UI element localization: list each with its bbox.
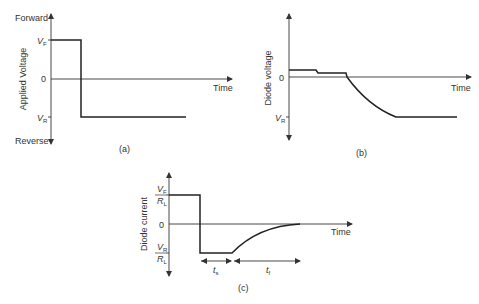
y-axis-label: Diode voltage xyxy=(263,50,273,105)
applied-voltage-trace xyxy=(51,40,186,117)
time-label: Time xyxy=(213,83,233,93)
y-axis-label: Applied Voltage xyxy=(18,48,28,111)
time-label: Time xyxy=(331,227,351,237)
tick-vr-over-rl: VR RL xyxy=(155,242,168,265)
panel-c-diode-current: ts tf Time Diode current VF RL 0 VR RL (… xyxy=(139,173,352,293)
panel-a-applied-voltage: Forward Reverse Time Applied Voltage VF … xyxy=(15,13,233,154)
caption-c: (c) xyxy=(238,283,249,293)
tick-vf: VF xyxy=(37,36,47,47)
tick-vr: VR xyxy=(37,113,48,124)
forward-label: Forward xyxy=(15,13,48,23)
svg-text:VR: VR xyxy=(157,242,168,253)
ts-label: ts xyxy=(213,265,219,276)
diode-switching-diagram: Forward Reverse Time Applied Voltage VF … xyxy=(0,0,479,304)
caption-a: (a) xyxy=(119,144,130,154)
tick-zero: 0 xyxy=(279,73,284,83)
tick-zero: 0 xyxy=(41,74,46,84)
svg-text:RL: RL xyxy=(157,196,168,207)
tick-vf-over-rl: VF RL xyxy=(155,184,168,207)
tick-vr: VR xyxy=(275,113,286,124)
svg-text:RL: RL xyxy=(157,254,168,265)
tick-zero: 0 xyxy=(159,220,164,230)
caption-b: (b) xyxy=(356,148,367,158)
reverse-label: Reverse xyxy=(15,136,49,146)
tf-label: tf xyxy=(266,265,271,276)
svg-text:VF: VF xyxy=(157,184,167,195)
time-label: Time xyxy=(451,83,471,93)
panel-b-diode-voltage: Time Diode voltage 0 VR (b) xyxy=(263,14,471,158)
y-axis-label: Diode current xyxy=(139,196,149,251)
